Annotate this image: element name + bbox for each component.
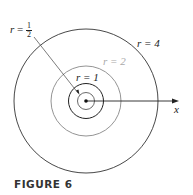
figure-caption: FIGURE 6: [14, 178, 72, 190]
x-axis-label: x: [174, 104, 179, 115]
leader-line-r-half: [34, 37, 78, 93]
fraction-denominator: 2: [26, 31, 32, 39]
leader-arrowhead: [76, 90, 80, 96]
label-r-half: r = 1 2: [10, 22, 32, 39]
label-r-4: r = 4: [137, 38, 160, 49]
origin-point: [84, 99, 88, 103]
label-r-2: r = 2: [103, 56, 126, 67]
label-r-1: r = 1: [76, 72, 99, 83]
